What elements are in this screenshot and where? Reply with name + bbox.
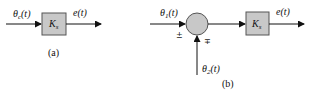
caption-b: (b): [222, 78, 234, 90]
summing-junction: [186, 13, 208, 35]
diagram-a: θc(t) Ks e(t) (a): [6, 7, 101, 59]
diagram-b: θ1(t) ± θ2(t) ∓ Ks e(t) (b): [150, 6, 304, 90]
input1-label-b: θ1(t): [160, 7, 179, 20]
caption-a: (a): [48, 47, 59, 59]
output-label-a: e(t): [73, 7, 88, 19]
block-diagram-canvas: θc(t) Ks e(t) (a) θ1(t) ± θ2(t) ∓ Ks e(t…: [0, 0, 311, 95]
output-label-b: e(t): [276, 6, 291, 18]
input-label-a: θc(t): [13, 8, 31, 21]
input2-label-b: θ2(t): [202, 63, 221, 76]
input1-sign: ±: [176, 31, 183, 40]
input2-sign: ∓: [204, 37, 211, 46]
